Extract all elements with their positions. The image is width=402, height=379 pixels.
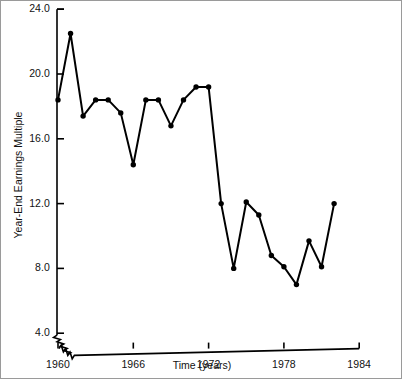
y-tick-label: 24.0 (16, 2, 50, 14)
chart-figure: 4.08.012.016.020.024.0 19601966197219781… (0, 0, 402, 379)
data-series-line (58, 34, 334, 285)
y-tick-label: 4.0 (16, 326, 50, 338)
line-chart-plot (1, 1, 402, 379)
data-point-markers (55, 31, 337, 288)
y-axis-title: Year-End Earnings Multiple (12, 75, 24, 275)
x-axis-title: Time (years) (1, 359, 402, 371)
axes (54, 9, 360, 359)
